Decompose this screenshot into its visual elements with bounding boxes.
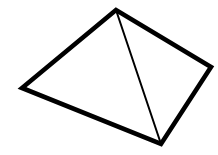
pyramid-figure [0, 0, 218, 155]
figure-canvas [0, 0, 218, 155]
